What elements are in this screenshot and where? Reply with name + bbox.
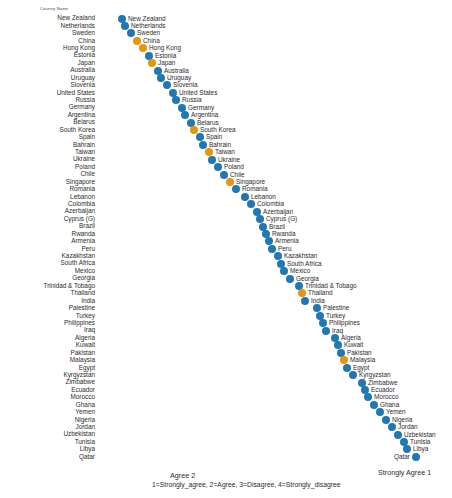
x-tick-agree: Agree 2 <box>170 471 195 480</box>
category-label: Australia <box>70 67 95 73</box>
category-label: Belarus <box>73 119 95 125</box>
data-point-label: Jordan <box>398 424 418 430</box>
data-point[interactable] <box>286 275 294 283</box>
category-label: Thailand <box>70 290 95 296</box>
category-label: Kuwait <box>76 342 95 348</box>
category-label: India <box>81 298 95 304</box>
x-axis-note: 1=Strongly_agree, 2=Agree, 3=Disagree, 4… <box>152 481 341 488</box>
data-point[interactable] <box>247 200 255 208</box>
data-point[interactable] <box>208 156 216 164</box>
data-point[interactable] <box>268 245 276 253</box>
data-point-label: Russia <box>182 97 202 103</box>
data-point-label: Yemen <box>386 409 406 415</box>
category-label: Palestine <box>69 305 95 311</box>
data-point[interactable] <box>181 111 189 119</box>
data-point-label: Mexico <box>290 268 310 274</box>
data-point-label: Azerbaijan <box>263 208 293 214</box>
category-label: Philippines <box>64 320 95 326</box>
data-point[interactable] <box>382 416 390 424</box>
category-axis: New ZealandNetherlandsSwedenChinaHong Ko… <box>0 0 95 498</box>
category-label: Egypt <box>79 365 95 371</box>
data-point[interactable] <box>232 185 240 193</box>
data-point-label: Turkey <box>326 312 345 318</box>
data-point[interactable] <box>199 141 207 149</box>
data-point[interactable] <box>133 37 141 45</box>
data-point[interactable] <box>322 327 330 335</box>
data-point[interactable] <box>343 364 351 372</box>
data-point[interactable] <box>121 22 129 30</box>
data-point-label: Lebanon <box>251 194 276 200</box>
data-point[interactable] <box>220 171 228 179</box>
category-label: Malaysia <box>70 357 95 363</box>
data-point-label: Trinidad & Tobago <box>305 283 357 289</box>
category-label: Georgia <box>72 275 95 281</box>
data-point[interactable] <box>388 423 396 431</box>
data-point-label: China <box>143 38 160 44</box>
category-label: Uzbekistan <box>63 431 95 437</box>
data-point[interactable] <box>214 163 222 171</box>
category-label: Mexico <box>75 268 95 274</box>
category-label: Iraq <box>84 327 95 333</box>
scatter-chart: Country Name New ZealandNetherlandsSwede… <box>0 0 452 498</box>
data-point-label: Romania <box>242 186 268 192</box>
category-label: Lebanon <box>70 194 95 200</box>
category-label: Ukraine <box>73 156 95 162</box>
category-label: Azerbaijan <box>65 208 95 214</box>
data-point-label: India <box>311 298 325 304</box>
category-label: Pakistan <box>70 350 95 356</box>
category-label: Singapore <box>66 179 95 185</box>
category-label: Estonia <box>74 52 95 58</box>
data-point-label: Slovenia <box>173 82 198 88</box>
data-point[interactable] <box>163 81 171 89</box>
data-point[interactable] <box>301 297 309 305</box>
category-label: Yemen <box>75 409 95 415</box>
data-point[interactable] <box>139 44 147 52</box>
category-label: Qatar <box>79 454 95 460</box>
category-label: Spain <box>79 134 95 140</box>
data-point[interactable] <box>190 126 198 134</box>
data-point[interactable] <box>349 371 357 379</box>
data-point[interactable] <box>412 453 420 461</box>
category-label: Nigeria <box>75 417 95 423</box>
data-point[interactable] <box>394 431 402 439</box>
data-point-label: Chile <box>230 171 245 177</box>
category-label: Kazakhstan <box>62 253 95 259</box>
data-point-label: Kuwait <box>344 342 363 348</box>
data-point[interactable] <box>370 401 378 409</box>
data-point[interactable] <box>148 59 156 67</box>
category-label: Turkey <box>76 313 95 319</box>
category-label: New Zealand <box>57 15 95 21</box>
data-point[interactable] <box>376 408 384 416</box>
category-label: Trinidad & Tobago <box>43 283 95 289</box>
data-point[interactable] <box>241 193 249 201</box>
data-point-label: Kazakhstan <box>284 253 317 259</box>
category-label: China <box>78 38 95 44</box>
data-point[interactable] <box>226 178 234 186</box>
data-point[interactable] <box>364 393 372 401</box>
data-point[interactable] <box>157 74 165 82</box>
data-point-label: Estonia <box>155 52 176 58</box>
category-label: Tunisia <box>75 439 95 445</box>
category-label: Germany <box>69 104 95 110</box>
data-point-label: Malaysia <box>350 357 375 363</box>
data-point-label: Morocco <box>374 394 399 400</box>
category-label: Libya <box>80 446 95 452</box>
category-label: Poland <box>75 164 95 170</box>
data-point[interactable] <box>172 96 180 104</box>
data-point[interactable] <box>280 267 288 275</box>
category-label: Morocco <box>70 394 95 400</box>
category-label: Netherlands <box>61 23 95 29</box>
data-point-label: Netherlands <box>131 23 165 29</box>
data-point-label: Argentina <box>191 112 218 118</box>
category-label: Russia <box>75 97 95 103</box>
data-point-label: Zimbabwe <box>368 379 397 385</box>
x-tick-strongly-agree: Strongly Agree 1 <box>378 468 431 477</box>
category-label: Algeria <box>75 335 95 341</box>
category-label: Taiwan <box>75 149 95 155</box>
data-point-label: Kyrgyzstan <box>359 372 391 378</box>
data-point-label: Bahrain <box>209 142 231 148</box>
category-label: Armenia <box>71 238 95 244</box>
plot-area: New ZealandNetherlandsSwedenChinaHong Ko… <box>95 0 452 470</box>
data-point[interactable] <box>127 29 135 37</box>
data-point-label: Ukraine <box>218 156 240 162</box>
